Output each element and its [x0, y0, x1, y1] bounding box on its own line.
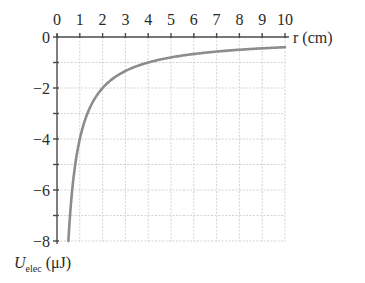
y-tick-label: 0: [42, 29, 50, 46]
y-tick-label: −6: [33, 182, 50, 199]
y-axis-label-unit: (μJ): [46, 254, 71, 272]
x-tick-label: 6: [190, 11, 198, 28]
energy-curve: [68, 47, 285, 241]
x-axis-ticks: 012345678910: [53, 11, 293, 38]
y-axis-label: Uelec(μJ): [14, 254, 71, 274]
y-tick-label: −8: [33, 233, 50, 250]
x-tick-label: 1: [76, 11, 84, 28]
chart: 012345678910 0−2−4−6−8 r (cm) Uelec(μJ): [0, 0, 365, 283]
x-tick-label: 2: [99, 11, 107, 28]
x-tick-label: 7: [213, 11, 221, 28]
x-tick-label: 5: [167, 11, 175, 28]
x-tick-label: 9: [258, 11, 266, 28]
y-tick-label: −4: [33, 131, 50, 148]
x-tick-label: 4: [144, 11, 152, 28]
x-tick-label: 8: [235, 11, 243, 28]
x-tick-label: 0: [53, 11, 61, 28]
grid: [57, 37, 285, 241]
y-axis-ticks: 0−2−4−6−8: [33, 29, 59, 250]
x-axis-label: r (cm): [293, 29, 333, 47]
x-tick-label: 3: [121, 11, 129, 28]
y-axis-label-sub: elec: [26, 263, 43, 274]
x-tick-label: 10: [277, 11, 293, 28]
y-tick-label: −2: [33, 80, 50, 97]
